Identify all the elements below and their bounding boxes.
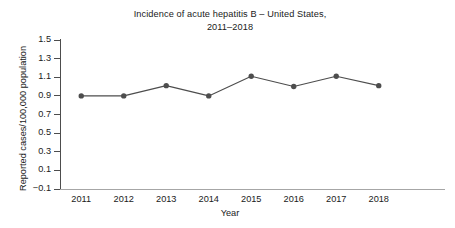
- data-point: [334, 74, 339, 79]
- data-series-layer: [0, 0, 455, 228]
- data-point: [121, 93, 126, 98]
- data-point: [206, 93, 211, 98]
- chart-figure: Incidence of acute hepatitis B – United …: [0, 0, 455, 228]
- data-point: [249, 74, 254, 79]
- data-point: [291, 84, 296, 89]
- data-point: [164, 83, 169, 88]
- series-line: [81, 76, 379, 96]
- data-point: [79, 93, 84, 98]
- data-point: [376, 83, 381, 88]
